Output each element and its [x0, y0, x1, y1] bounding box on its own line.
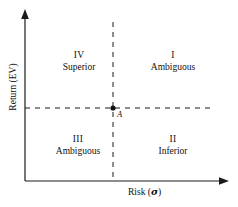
quadrant-iv-roman: IV — [42, 50, 116, 62]
point-a-label: A — [117, 109, 122, 119]
quadrant-label-ii: II Inferior — [136, 134, 210, 158]
quadrant-iii-name: Ambiguous — [38, 146, 118, 158]
sigma-symbol-icon: σ — [151, 186, 158, 197]
quadrant-iii-roman: III — [38, 134, 118, 146]
quadrant-iv-name: Superior — [42, 62, 116, 74]
quadrant-i-name: Ambiguous — [134, 62, 212, 74]
quadrant-label-iii: III Ambiguous — [38, 134, 118, 158]
x-axis-arrowhead-icon — [219, 177, 229, 185]
quadrant-ii-name: Inferior — [136, 146, 210, 158]
quadrant-ii-roman: II — [136, 134, 210, 146]
y-axis-arrowhead-icon — [21, 9, 29, 19]
quadrant-i-roman: I — [134, 50, 212, 62]
axes-and-lines-layer — [0, 0, 238, 207]
risk-return-quadrant-diagram: IV Superior I Ambiguous III Ambiguous II… — [0, 0, 238, 207]
x-axis-label: Risk (σ) — [128, 186, 161, 197]
quadrant-label-iv: IV Superior — [42, 50, 116, 74]
x-axis-label-text: Risk ( — [128, 187, 151, 197]
point-a-marker — [110, 105, 115, 110]
y-axis-label: Return (EV) — [8, 52, 18, 122]
x-axis-label-close: ) — [158, 187, 161, 197]
quadrant-label-i: I Ambiguous — [134, 50, 212, 74]
